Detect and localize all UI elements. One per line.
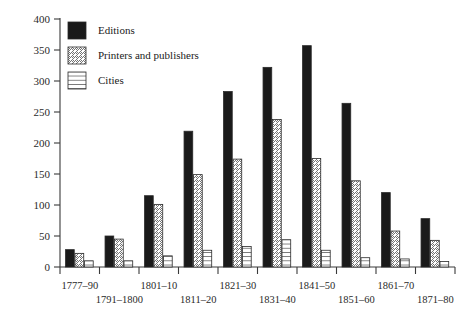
bar xyxy=(124,261,133,267)
x-tick-label: 1811–20 xyxy=(180,294,216,305)
bar-group xyxy=(66,250,94,267)
bar xyxy=(233,159,242,267)
bar-group xyxy=(145,196,173,267)
bar xyxy=(321,250,330,267)
bar xyxy=(115,239,124,267)
bar xyxy=(400,259,409,267)
bar xyxy=(273,119,282,267)
y-tick-label: 50 xyxy=(39,230,51,242)
y-tick-label: 150 xyxy=(34,168,51,180)
y-tick-label: 0 xyxy=(45,261,51,273)
x-tick-label: 1831–40 xyxy=(259,294,296,305)
x-tick-label: 1861–70 xyxy=(377,280,414,291)
bar xyxy=(421,219,430,267)
bar xyxy=(440,261,449,267)
bar xyxy=(242,247,251,267)
bar xyxy=(194,175,203,267)
bar xyxy=(145,196,154,267)
legend-swatch-diagonal-hatch xyxy=(68,47,86,64)
bar xyxy=(312,159,321,268)
bar xyxy=(203,250,212,267)
bar-chart: 050100150200250300350400 1777–901791–180… xyxy=(0,0,470,316)
x-tick-label: 1821–30 xyxy=(219,280,256,291)
x-tick-label: 1791–1800 xyxy=(96,294,143,305)
legend-swatch-horizontal-hatch xyxy=(68,72,86,89)
bar xyxy=(431,240,440,267)
bar xyxy=(184,131,193,267)
y-tick-label: 100 xyxy=(34,199,51,211)
bar xyxy=(105,236,114,267)
x-axis: 1777–901791–18001801–101811–201821–30183… xyxy=(60,267,455,305)
bar xyxy=(75,253,84,267)
x-tick-label: 1851–60 xyxy=(338,294,375,305)
x-tick-label: 1777–90 xyxy=(61,280,98,291)
bar xyxy=(163,256,172,267)
x-tick-label: 1841–50 xyxy=(298,280,335,291)
y-tick-label: 250 xyxy=(34,106,51,118)
y-axis: 050100150200250300350400 xyxy=(34,13,61,273)
legend-item: Printers and publishers xyxy=(68,47,199,64)
bar xyxy=(342,103,351,267)
bar-group xyxy=(382,193,410,267)
chart-canvas: 050100150200250300350400 1777–901791–180… xyxy=(0,0,470,316)
bar-group xyxy=(184,131,212,267)
legend-item: Cities xyxy=(68,72,124,89)
bar xyxy=(224,92,233,267)
bar-group xyxy=(303,46,331,267)
bar xyxy=(391,231,400,267)
bar xyxy=(303,46,312,267)
bar-group xyxy=(224,92,252,267)
legend-item: Editions xyxy=(68,22,135,39)
bar xyxy=(263,67,272,267)
legend-label: Cities xyxy=(98,74,124,86)
chart-legend: EditionsPrinters and publishersCities xyxy=(68,22,199,89)
bar xyxy=(352,181,361,267)
bar-group xyxy=(342,103,370,267)
bar xyxy=(382,193,391,267)
x-tick-label: 1801–10 xyxy=(140,280,177,291)
y-tick-label: 350 xyxy=(34,44,51,56)
bar-group xyxy=(263,67,291,267)
bar xyxy=(84,261,93,267)
bar-group xyxy=(421,219,449,267)
y-tick-label: 400 xyxy=(34,13,51,25)
y-tick-label: 300 xyxy=(34,75,51,87)
x-tick-label: 1871–80 xyxy=(417,294,454,305)
legend-swatch-solid-black xyxy=(68,22,86,39)
bar xyxy=(361,258,370,267)
y-tick-label: 200 xyxy=(34,137,51,149)
legend-label: Editions xyxy=(98,24,135,36)
bar xyxy=(66,250,75,267)
legend-label: Printers and publishers xyxy=(98,49,199,61)
bar xyxy=(282,240,291,267)
bar xyxy=(154,204,163,267)
bar-group xyxy=(105,236,133,267)
